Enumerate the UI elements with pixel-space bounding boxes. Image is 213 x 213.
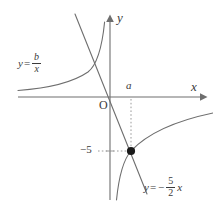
y-axis-arrowhead [106, 15, 114, 23]
hyperbola-fraction: b x [32, 52, 41, 74]
line-variable: x [176, 182, 182, 193]
x-axis-label: x [191, 80, 197, 93]
hyperbola-equals: = [23, 58, 31, 69]
origin-label: O [99, 99, 108, 111]
y-tick-label-neg5: −5 [80, 144, 92, 155]
intersection-point [127, 147, 135, 155]
line-equals: = [149, 182, 157, 193]
hyperbola-denominator: x [32, 63, 40, 75]
hyperbola-numerator: b [32, 52, 41, 63]
x-axis-arrowhead [200, 93, 208, 101]
x-tick-label-a: a [126, 80, 132, 91]
hyperbola-equation-label: y = b x [18, 52, 42, 74]
line-fraction: 5 2 [166, 176, 175, 198]
straight-line-negative-five-halves-x [75, 14, 147, 194]
line-minus-sign: − [157, 182, 165, 193]
line-denominator: 2 [166, 187, 175, 199]
math-figure: y x O a −5 y = b x y = − 5 2 x [0, 0, 213, 213]
line-equation-label: y = − 5 2 x [144, 176, 182, 198]
y-axis-label: y [117, 11, 123, 24]
line-numerator: 5 [166, 176, 175, 187]
